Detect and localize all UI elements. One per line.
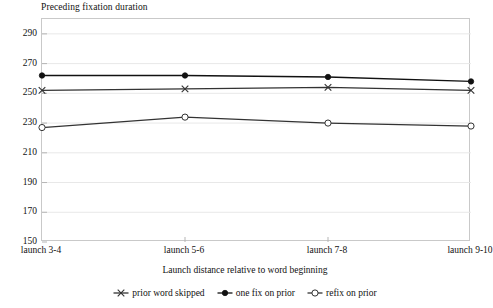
series-3: [39, 114, 474, 131]
open-circle-marker: [325, 120, 331, 126]
filled-circle-marker: [217, 288, 233, 298]
y-axis-tick-labels: 290270250230210190170150: [0, 18, 37, 241]
open-circle-marker: [39, 124, 45, 130]
x-tick-label: launch 5-6: [164, 245, 204, 255]
filled-circle-marker: [222, 290, 227, 295]
legend-label: prior word skipped: [132, 288, 204, 298]
x-tick-label: launch 9-10: [447, 245, 492, 255]
plot-area: [41, 18, 470, 241]
x-marker: [113, 288, 129, 298]
x-tick-label: launch 7-8: [307, 245, 347, 255]
legend-label: one fix on prior: [236, 288, 295, 298]
filled-circle-marker: [468, 79, 473, 84]
y-tick-label: 210: [3, 147, 37, 157]
open-circle-marker: [307, 288, 323, 298]
chart-legend: prior word skippedone fix on priorrefix …: [0, 288, 490, 298]
y-tick-label: 290: [3, 28, 37, 38]
legend-item: refix on prior: [307, 288, 377, 298]
open-circle-marker: [182, 114, 188, 120]
legend-item: prior word skipped: [113, 288, 204, 298]
series-line: [42, 75, 471, 81]
legend-label: refix on prior: [326, 288, 377, 298]
legend-item: one fix on prior: [217, 288, 295, 298]
plot-canvas: [42, 19, 471, 242]
x-axis-tick-labels: launch 3-4launch 5-6launch 7-8launch 9-1…: [0, 245, 490, 261]
series-line: [42, 87, 471, 90]
series-2: [39, 73, 473, 84]
open-circle-marker: [312, 290, 318, 296]
y-tick-label: 250: [3, 87, 37, 97]
filled-circle-marker: [182, 73, 187, 78]
y-tick-label: 270: [3, 58, 37, 68]
y-tick-label: 230: [3, 117, 37, 127]
x-axis-title: Launch distance relative to word beginni…: [0, 265, 490, 275]
filled-circle-marker: [39, 73, 44, 78]
chart-title: Preceding fixation duration: [41, 2, 148, 12]
series-line: [42, 117, 471, 127]
x-tick-label: launch 3-4: [21, 245, 61, 255]
filled-circle-marker: [325, 74, 330, 79]
y-tick-label: 170: [3, 206, 37, 216]
y-tick-label: 190: [3, 177, 37, 187]
series-1: [39, 84, 475, 94]
open-circle-marker: [468, 123, 474, 129]
